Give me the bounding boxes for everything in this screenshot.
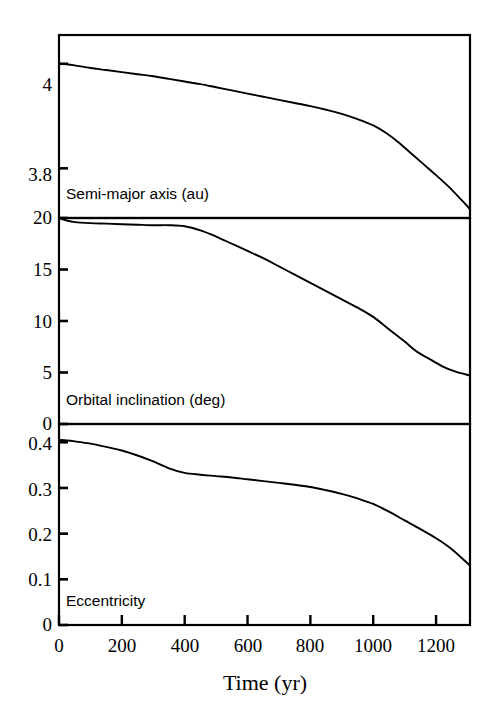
xtick-label-800: 800	[285, 636, 335, 655]
xtick-label-600: 600	[223, 636, 273, 655]
ytick-label-p1-4: 4	[22, 75, 52, 94]
xtick-label-400: 400	[160, 636, 210, 655]
xtick-label-200: 200	[97, 636, 147, 655]
x-axis-title: Time (yr)	[175, 672, 355, 694]
ytick-label-p3-0.2: 0.2	[8, 525, 52, 544]
ytick-label-p3-0.4: 0.4	[8, 434, 52, 453]
plot-canvas	[0, 0, 492, 720]
ytick-label-p2-10: 10	[14, 312, 52, 331]
panel-label-semi-major-axis: Semi-major axis (au)	[66, 186, 209, 202]
ytick-label-p2-0: 0	[14, 414, 52, 433]
xtick-label-1000: 1000	[343, 636, 403, 655]
tick-marks	[59, 64, 436, 625]
data-curves	[59, 64, 470, 566]
panel-label-eccentricity: Eccentricity	[66, 593, 145, 609]
xtick-label-0: 0	[39, 636, 79, 655]
ytick-label-p3-0: 0	[14, 615, 52, 634]
xtick-label-1200: 1200	[406, 636, 466, 655]
ytick-label-p2-5: 5	[14, 363, 52, 382]
ytick-label-p3-0.1: 0.1	[8, 570, 52, 589]
panel-label-orbital-inclination: Orbital inclination (deg)	[66, 392, 225, 408]
ytick-label-p3-0.3: 0.3	[8, 480, 52, 499]
ytick-label-p2-15: 15	[14, 260, 52, 279]
ytick-label-p1-3.8: 3.8	[8, 165, 52, 184]
axes-frames	[59, 35, 470, 625]
figure-root: 4 3.8 20 15 10 5 0 0.4 0.3 0.2 0.1 0 Sem…	[0, 0, 492, 720]
ytick-label-p2-20: 20	[14, 208, 52, 227]
